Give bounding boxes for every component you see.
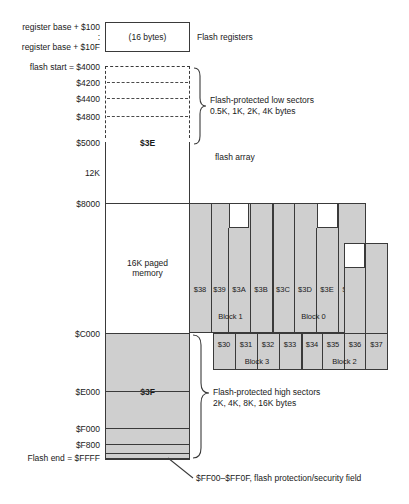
paged-memory-label-line2: memory xyxy=(105,268,190,278)
high-sector-divider-E000 xyxy=(105,391,190,392)
security-field-note: $FF00–$FF0F, flash protection/security f… xyxy=(196,473,361,483)
page-label-33: $33 xyxy=(279,340,301,349)
page-label-30: $30 xyxy=(213,340,235,349)
page-36-notch xyxy=(345,244,365,268)
array-bottom-edge xyxy=(105,458,190,460)
addr-4200: $4200 xyxy=(0,78,100,88)
addr-5000: $5000 xyxy=(0,138,100,148)
addr-8000: $8000 xyxy=(0,199,100,209)
addr-F800: $F800 xyxy=(0,440,100,450)
page-label-3C: $3C xyxy=(272,285,294,294)
addr-flash-start: flash start = $4000 xyxy=(0,62,100,72)
low-sector-divider-4800 xyxy=(107,116,188,117)
high-sectors-caption-line1: Flash-protected high sectors xyxy=(213,387,320,397)
low-sectors-caption-line2: 0.5K, 1K, 2K, 4K bytes xyxy=(210,106,296,116)
page-label-3D: $3D xyxy=(294,285,316,294)
low-sector-divider-4400 xyxy=(107,98,188,99)
high-sectors-caption-line2: 2K, 4K, 8K, 16K bytes xyxy=(213,398,296,408)
page-label-36: $36 xyxy=(344,340,366,349)
flash-array-caption: flash array xyxy=(215,152,255,162)
block-label-3: Block 3 xyxy=(213,357,301,366)
flash-registers-caption: Flash registers xyxy=(197,32,253,42)
page-label-34: $34 xyxy=(301,340,323,349)
register-addr-top: register base + $100 xyxy=(0,22,100,32)
size-12k-label: 12K xyxy=(0,168,100,178)
addr-E000: $E000 xyxy=(0,387,100,397)
addr-flash-end: Flash end = $FFFF xyxy=(0,453,100,463)
page-label-38: $38 xyxy=(189,285,211,294)
low-sectors-caption-line1: Flash-protected low sectors xyxy=(210,95,314,105)
block-label-1: Block 1 xyxy=(189,312,272,321)
low-sectors-dashed-box xyxy=(105,66,190,143)
high-sector-divider-F800 xyxy=(105,444,190,445)
addr-4800: $4800 xyxy=(0,112,100,122)
page-3E-notch xyxy=(317,204,338,228)
addr-4400: $4400 xyxy=(0,94,100,104)
low-sectors-page-label: $3E xyxy=(105,138,190,148)
page-label-3B: $3B xyxy=(250,285,272,294)
page-3A-notch xyxy=(229,204,249,228)
addr-C000: $C000 xyxy=(0,329,100,339)
paged-memory-label-line1: 16K paged xyxy=(105,258,190,268)
block-label-0: Block 0 xyxy=(272,312,355,321)
page-label-35: $35 xyxy=(322,340,344,349)
page-label-3E-upper: $3E xyxy=(316,285,338,294)
block-label-2: Block 2 xyxy=(301,357,388,366)
page-label-37: $37 xyxy=(365,340,388,349)
array-divider-8000 xyxy=(105,203,190,204)
page-label-31: $31 xyxy=(235,340,257,349)
page-label-32: $32 xyxy=(257,340,279,349)
low-sector-divider-4200 xyxy=(107,82,188,83)
addr-F000: $F000 xyxy=(0,424,100,434)
high-sector-divider-F000 xyxy=(105,428,190,429)
page-label-39: $39 xyxy=(211,285,228,294)
register-addr-bottom: register base + $10F xyxy=(0,42,100,52)
flash-registers-size-label: (16 bytes) xyxy=(105,32,190,42)
security-field-strip-top xyxy=(105,453,190,454)
register-addr-ellipsis: : xyxy=(0,32,100,42)
page-label-3A: $3A xyxy=(228,285,250,294)
